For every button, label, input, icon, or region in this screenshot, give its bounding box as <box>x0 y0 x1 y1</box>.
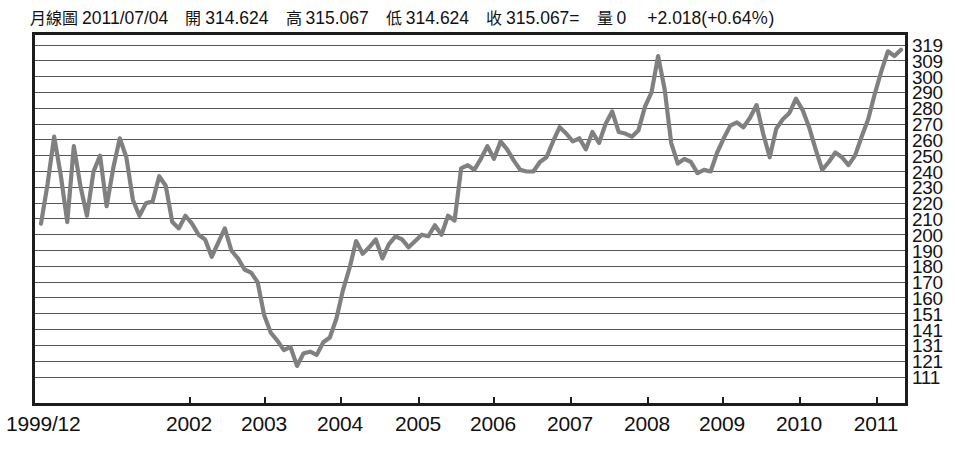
x-axis-labels: 1999/12200220032004200520062007200820092… <box>0 406 955 446</box>
x-axis-tick-label: 2008 <box>624 413 670 435</box>
x-axis-tick-mark <box>647 397 649 406</box>
volume-group: 量 0 <box>597 5 644 29</box>
volume-label: 量 <box>597 5 613 29</box>
x-axis-tick-label: 2007 <box>547 413 593 435</box>
quote-date: 2011/07/04 <box>82 8 168 29</box>
low-label: 低 <box>386 5 402 29</box>
chart-type-label: 月線圖 <box>30 5 78 29</box>
x-axis-tick-mark <box>340 397 342 406</box>
y-axis-tick-label: 111 <box>912 368 940 387</box>
x-axis-tick-mark <box>722 397 724 406</box>
close-value: 315.067= <box>506 8 579 29</box>
x-axis-tick-label: 2003 <box>241 413 287 435</box>
volume-value: 0 <box>617 8 627 29</box>
high-group: 高 315.067 <box>286 5 386 29</box>
open-group: 開 314.624 <box>185 5 285 29</box>
close-group: 收 315.067= <box>486 5 596 29</box>
high-label: 高 <box>286 5 302 29</box>
x-axis-tick-mark <box>493 397 495 406</box>
open-label: 開 <box>185 5 201 29</box>
close-label: 收 <box>486 5 502 29</box>
x-axis-tick-label: 2005 <box>395 413 441 435</box>
x-axis-tick-mark <box>264 397 266 406</box>
x-axis-tick-label: 2009 <box>699 413 745 435</box>
quote-header-bar: 月線圖 2011/07/04 開 314.624 高 315.067 低 314… <box>30 4 774 28</box>
x-axis-tick-mark <box>799 397 801 406</box>
open-value: 314.624 <box>205 8 268 29</box>
y-axis-labels: 3193093002902802702602502402302202102001… <box>910 32 955 406</box>
high-value: 315.067 <box>306 8 369 29</box>
x-axis-tick-label: 2011 <box>854 413 898 435</box>
x-axis-tick-label: 2002 <box>166 413 212 435</box>
change-value: +2.018(+0.64％) <box>647 4 774 29</box>
x-axis-tick-label: 1999/12 <box>6 413 81 435</box>
chart-plot-frame <box>32 32 908 406</box>
low-value: 314.624 <box>406 8 469 29</box>
plot-area <box>35 35 905 403</box>
x-axis-tick-mark <box>570 397 572 406</box>
x-axis-tick-mark <box>876 397 878 406</box>
x-axis-tick-label: 2006 <box>470 413 516 435</box>
x-axis-tick-mark <box>418 397 420 406</box>
x-axis-tick-mark <box>189 397 191 406</box>
x-axis-tick-label: 2004 <box>317 413 363 435</box>
low-group: 低 314.624 <box>386 5 486 29</box>
x-axis-tick-label: 2010 <box>776 413 822 435</box>
price-line-series <box>35 35 905 403</box>
